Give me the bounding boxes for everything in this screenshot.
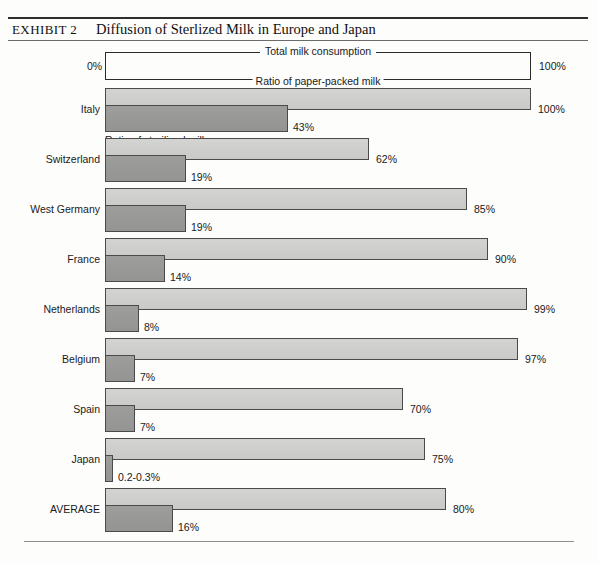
- legend-bracket-paper: Ratio of paper-packed milk: [105, 66, 531, 80]
- value-label-sterilized: 8%: [144, 321, 159, 333]
- value-label-total: 70%: [410, 403, 431, 415]
- value-label-sterilized: 19%: [191, 221, 212, 233]
- bracket-rail-left: [105, 52, 260, 53]
- value-label-sterilized: 7%: [140, 421, 155, 433]
- row-label-spain: Spain: [0, 403, 100, 415]
- bar-sterilized-milk: [105, 505, 173, 532]
- value-label-total: 99%: [534, 303, 555, 315]
- row-label-average: AVERAGE: [0, 503, 100, 515]
- row-label-west-germany: West Germany: [0, 203, 100, 215]
- chart-row: Italy100%43%: [0, 88, 598, 132]
- value-label-total: 85%: [474, 203, 495, 215]
- chart-row: Spain70%7%: [0, 388, 598, 432]
- axis-min-label: 0%: [87, 60, 102, 72]
- value-label-sterilized: 7%: [140, 371, 155, 383]
- chart-legend: 0% 100% Total milk consumption Ratio of …: [105, 52, 531, 80]
- legend-label-paper-packed: Ratio of paper-packed milk: [253, 75, 384, 87]
- chart-row: France90%14%: [0, 238, 598, 282]
- chart-row: Switzerland62%19%: [0, 138, 598, 182]
- exhibit-page: EXHIBIT 2 Diffusion of Sterlized Milk in…: [0, 0, 598, 564]
- row-label-france: France: [0, 253, 100, 265]
- footer-rule: [24, 541, 574, 542]
- chart-plot: Italy100%43%Ratio of sterilized milkSwit…: [0, 88, 598, 538]
- row-label-switzerland: Switzerland: [0, 153, 100, 165]
- bracket-tick-right: [530, 52, 531, 66]
- chart-row: AVERAGE80%16%: [0, 488, 598, 532]
- row-label-belgium: Belgium: [0, 353, 100, 365]
- legend-bracket-total: Total milk consumption: [105, 52, 531, 66]
- chart-row: Japan75%0.2-0.3%: [0, 438, 598, 482]
- value-label-total: 80%: [453, 503, 474, 515]
- value-label-sterilized: 19%: [191, 171, 212, 183]
- row-label-japan: Japan: [0, 453, 100, 465]
- bar-sterilized-milk: [105, 255, 165, 282]
- chart-row: Belgium97%7%: [0, 338, 598, 382]
- value-label-total: 100%: [538, 103, 565, 115]
- bar-total-milk: [105, 338, 518, 360]
- chart-row: Netherlands99%8%: [0, 288, 598, 332]
- bar-total-milk: [105, 388, 403, 410]
- bar-total-milk: [105, 288, 527, 310]
- chart-row: West Germany85%19%: [0, 188, 598, 232]
- value-label-sterilized: 16%: [178, 521, 199, 533]
- value-label-total: 97%: [525, 353, 546, 365]
- bar-sterilized-milk: [105, 205, 186, 232]
- bar-sterilized-milk: [105, 355, 135, 382]
- bar-sterilized-milk: [105, 105, 288, 132]
- legend-label-total-milk: Total milk consumption: [262, 45, 374, 57]
- value-label-total: 62%: [376, 153, 397, 165]
- value-label-total: 75%: [432, 453, 453, 465]
- header-rule-top: [8, 17, 588, 19]
- bracket-tick-left: [105, 66, 106, 80]
- value-label-sterilized: 43%: [293, 121, 314, 133]
- bracket-tick-right: [530, 66, 531, 80]
- bar-sterilized-milk: [105, 455, 113, 482]
- bracket-rail-right: [376, 52, 531, 53]
- value-label-total: 90%: [495, 253, 516, 265]
- bar-total-milk: [105, 438, 425, 460]
- value-label-sterilized: 14%: [170, 271, 191, 283]
- axis-max-label: 100%: [539, 60, 566, 72]
- bar-sterilized-milk: [105, 155, 186, 182]
- row-label-netherlands: Netherlands: [0, 303, 100, 315]
- row-label-italy: Italy: [0, 103, 100, 115]
- value-label-sterilized: 0.2-0.3%: [118, 471, 160, 483]
- exhibit-number: EXHIBIT 2: [12, 22, 77, 37]
- exhibit-header: EXHIBIT 2 Diffusion of Sterlized Milk in…: [12, 20, 376, 38]
- bracket-rail-left: [105, 79, 255, 80]
- bracket-rail-right: [381, 79, 531, 80]
- exhibit-title: Diffusion of Sterlized Milk in Europe an…: [96, 21, 376, 37]
- bar-sterilized-milk: [105, 305, 139, 332]
- bar-sterilized-milk: [105, 405, 135, 432]
- header-rule-bottom: [8, 40, 588, 41]
- bracket-tick-left: [105, 52, 106, 66]
